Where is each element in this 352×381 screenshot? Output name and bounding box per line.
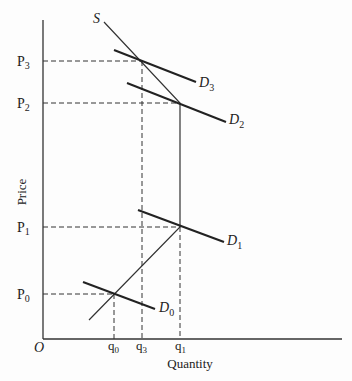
x-axis-title: Quantity <box>167 356 213 371</box>
origin-label: O <box>34 340 44 355</box>
demand-label-d2: D2 <box>228 112 244 130</box>
supply-label: S <box>93 11 100 26</box>
price-label-p1: P1 <box>17 220 30 237</box>
y-axis-title: Price <box>14 178 29 205</box>
demand-curve-d1 <box>138 210 224 242</box>
quantity-label-q0: q0 <box>108 338 120 355</box>
quantity-label-q1: q1 <box>175 338 186 355</box>
supply-demand-diagram: S D3 D2 D1 D0 P3 P2 P1 P0 O q0 q3 q1 Qua… <box>0 0 352 381</box>
demand-curve-d0 <box>83 282 155 309</box>
demand-label-d1: D1 <box>226 233 242 251</box>
supply-curve <box>89 22 180 320</box>
price-label-p0: P0 <box>17 287 30 304</box>
demand-label-d0: D0 <box>158 300 174 318</box>
price-label-p2: P2 <box>17 96 30 113</box>
quantity-label-q3: q3 <box>136 338 148 355</box>
diagram-canvas: S D3 D2 D1 D0 P3 P2 P1 P0 O q0 q3 q1 Qua… <box>0 0 352 381</box>
demand-label-d3: D3 <box>198 75 214 93</box>
price-label-p3: P3 <box>17 54 30 71</box>
